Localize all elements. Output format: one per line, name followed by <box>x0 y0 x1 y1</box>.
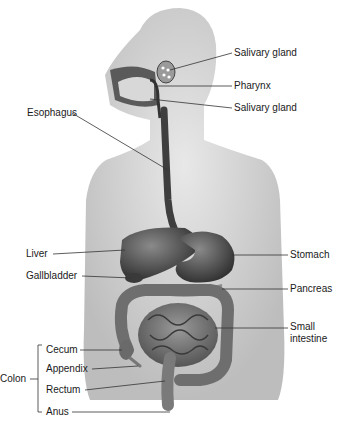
label-pancreas: Pancreas <box>290 283 332 294</box>
label-cecum: Cecum <box>46 344 78 355</box>
label-small-intestine-line2: intestine <box>290 333 327 344</box>
label-salivary-gland-lower: Salivary gland <box>234 102 297 113</box>
label-small-intestine-line1: Small <box>290 321 315 332</box>
label-stomach: Stomach <box>290 249 329 260</box>
label-colon: Colon <box>0 373 26 384</box>
label-gallbladder: Gallbladder <box>26 270 77 281</box>
label-liver: Liver <box>26 248 48 259</box>
label-appendix: Appendix <box>46 363 88 374</box>
label-esophagus: Esophagus <box>27 107 77 118</box>
rectum-organ <box>167 358 170 405</box>
label-pharynx: Pharynx <box>234 80 271 91</box>
digestive-system-figure <box>0 0 346 422</box>
salivary-gland-upper <box>157 61 175 83</box>
label-anus: Anus <box>46 406 69 417</box>
label-salivary-gland-upper: Salivary gland <box>234 47 297 58</box>
label-rectum: Rectum <box>46 384 80 395</box>
